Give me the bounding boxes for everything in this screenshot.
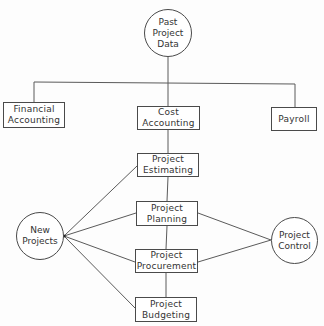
node-label: Project Estimating (143, 154, 193, 176)
node-label: Project Procurement (137, 250, 197, 272)
node-label: New Projects (22, 225, 57, 247)
node-label: Past Project Data (153, 17, 184, 50)
node-project-planning: Project Planning (136, 201, 198, 226)
node-financial-accounting: Financial Accounting (3, 102, 65, 128)
edge-planning-to-control (198, 213, 271, 240)
node-project-estimating: Project Estimating (137, 153, 199, 177)
node-payroll: Payroll (271, 107, 317, 131)
edge-new-to-estimating (64, 166, 137, 236)
node-label: Project Control (278, 230, 311, 252)
edge-estimating-to-planning (167, 177, 168, 201)
node-label: Project Budgeting (142, 299, 190, 321)
edge-new-to-planning (64, 213, 136, 236)
node-label: Financial Accounting (8, 104, 60, 126)
node-new-projects: New Projects (16, 212, 64, 260)
edge-procurement-to-control (198, 240, 271, 262)
node-label: Cost Accounting (142, 107, 194, 129)
node-label: Project Planning (147, 203, 187, 225)
node-project-control: Project Control (271, 217, 318, 264)
edge-new-to-procurement (64, 236, 135, 262)
edge-new-to-budgeting (64, 236, 135, 308)
node-past-project-data: Past Project Data (144, 9, 192, 57)
node-cost-accounting: Cost Accounting (137, 106, 200, 130)
diagram-canvas: Past Project Data Financial Accounting C… (0, 0, 324, 326)
edge-bus (34, 82, 295, 84)
node-label: Payroll (278, 114, 309, 125)
edge-planning-to-procurement (166, 226, 167, 249)
node-project-budgeting: Project Budgeting (135, 297, 197, 322)
node-project-procurement: Project Procurement (135, 249, 198, 273)
